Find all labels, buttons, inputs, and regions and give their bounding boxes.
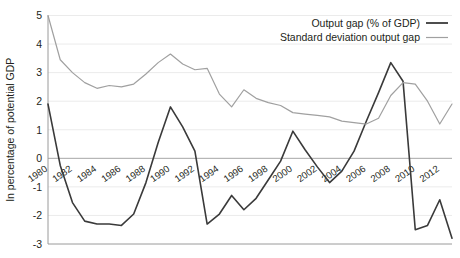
x-tick-label: 2008 xyxy=(368,163,392,184)
legend-label: Standard deviation output gap xyxy=(280,31,420,43)
y-tick-label: 1 xyxy=(36,124,42,136)
x-tick-label: 1998 xyxy=(246,163,270,184)
y-tick-label: -3 xyxy=(33,238,42,250)
chart-legend: Output gap (% of GDP)Standard deviation … xyxy=(280,17,448,43)
y-axis-title-text: In percentage of potential GDP xyxy=(4,58,16,202)
x-tick-label: 1982 xyxy=(50,163,74,184)
x-tick-label: 2010 xyxy=(393,163,417,184)
x-tick-label: 1986 xyxy=(99,163,123,184)
x-tick-label: 1996 xyxy=(221,163,245,184)
x-tick-label: 1988 xyxy=(123,163,147,184)
y-tick-label: -2 xyxy=(33,209,42,221)
series-line xyxy=(48,63,452,239)
x-tick-label: 2000 xyxy=(270,163,294,184)
gridlines xyxy=(48,16,452,216)
x-tick-label: 1984 xyxy=(74,163,98,184)
y-axis-title: In percentage of potential GDP xyxy=(4,58,16,202)
y-axis-tick-labels: 543210-1-2-3 xyxy=(33,9,43,250)
y-tick-label: 3 xyxy=(36,66,42,78)
data-series xyxy=(48,16,452,239)
y-tick-label: 2 xyxy=(36,95,42,107)
x-tick-label: 2002 xyxy=(295,163,319,184)
y-tick-label: 0 xyxy=(36,152,42,164)
x-tick-label: 2006 xyxy=(344,163,368,184)
line-chart: 543210-1-2-3 198019821984198619881990199… xyxy=(0,0,460,258)
x-tick-label: 2012 xyxy=(417,163,441,184)
chart-container: 543210-1-2-3 198019821984198619881990199… xyxy=(0,0,460,258)
legend-label: Output gap (% of GDP) xyxy=(311,17,420,29)
x-tick-label: 1992 xyxy=(172,163,196,184)
y-tick-label: 4 xyxy=(36,38,42,50)
x-axis-tick-labels: 1980198219841986198819901992199419961998… xyxy=(26,163,441,184)
y-tick-label: 5 xyxy=(36,9,42,21)
